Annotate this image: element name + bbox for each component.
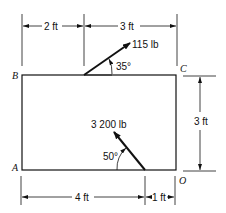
force-3200-arrow: [114, 132, 145, 170]
dim-bottom-right: 1 ft: [152, 192, 166, 203]
point-b: B: [12, 70, 18, 81]
dim-top-right: 3 ft: [120, 21, 134, 32]
plate-diagram: 2 ft 3 ft 115 lb 35° 3 ft 3 200 lb 50° B…: [0, 0, 226, 213]
point-c: C: [180, 63, 187, 74]
dim-top-left: 2 ft: [44, 21, 58, 32]
angle-50-label: 50°: [103, 151, 118, 162]
angle-35-arc: [109, 59, 112, 74]
force-3200-label: 3 200 lb: [91, 119, 127, 130]
angle-35-label: 35°: [116, 61, 131, 72]
force-115-label: 115 lb: [132, 39, 159, 50]
angle-50-arc: [117, 148, 126, 170]
dim-bottom-left: 4 ft: [75, 192, 89, 203]
dim-right-height: 3 ft: [194, 116, 208, 127]
point-a: A: [11, 162, 19, 173]
point-o: O: [179, 175, 186, 186]
